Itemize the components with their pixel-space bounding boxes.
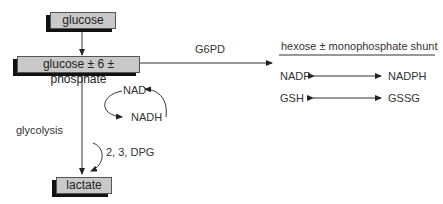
- label-nadh: NADH: [131, 111, 162, 123]
- shunt-title: hexose ± monophosphate shunt: [281, 40, 437, 52]
- node-lactate-label: lactate: [66, 178, 101, 192]
- node-lactate: lactate: [56, 177, 112, 194]
- label-nad: NAD: [123, 84, 146, 96]
- node-glucose: glucose: [50, 12, 116, 29]
- shunt-pair-right-gssg: GSSG: [388, 92, 420, 104]
- label-dpg: 2, 3, DPG: [106, 146, 154, 158]
- arrow-dpg: [91, 143, 102, 171]
- node-glucose-label: glucose: [62, 13, 103, 27]
- shunt-pair-left-gsh: GSH: [280, 92, 304, 104]
- label-glycolysis: glycolysis: [16, 124, 63, 136]
- node-g6p-label: glucose ± 6 ± phosphate: [43, 57, 114, 86]
- diagram-connectors: [0, 0, 443, 204]
- shunt-pair-left-nadp: NADP: [280, 70, 311, 82]
- arrow-nad-to-nadh: [105, 91, 122, 117]
- node-g6p: glucose ± 6 ± phosphate: [17, 56, 140, 73]
- shunt-pair-right-nadph: NADPH: [388, 70, 427, 82]
- label-g6pd: G6PD: [195, 43, 225, 55]
